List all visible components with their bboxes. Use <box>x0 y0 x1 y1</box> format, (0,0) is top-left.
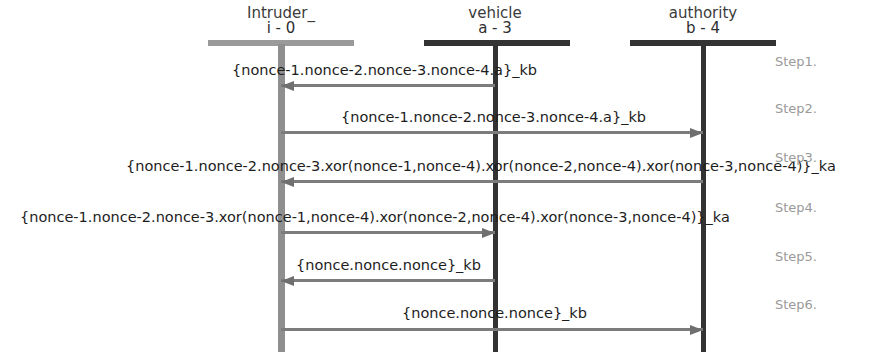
message-arrow-line <box>281 84 495 87</box>
step-label: Step4. <box>775 200 817 215</box>
message-arrow-line <box>281 180 703 183</box>
step-label: Step1. <box>775 54 817 69</box>
message-label: {nonce.nonce.nonce}_kb <box>296 257 481 273</box>
actor-id: b - 4 <box>593 21 813 36</box>
actor-id: i - 0 <box>171 21 391 36</box>
step-label: Step6. <box>775 297 817 312</box>
lifeline-authority <box>701 44 706 352</box>
message-arrowhead-right <box>690 325 703 335</box>
message-arrowhead-right <box>482 228 495 238</box>
message-label: {nonce-1.nonce-2.nonce-3.xor(nonce-1,non… <box>126 158 836 174</box>
step-label: Step5. <box>775 249 817 264</box>
message-arrow-line <box>281 231 495 234</box>
message-arrowhead-left <box>281 177 294 187</box>
message-arrowhead-left <box>281 276 294 286</box>
message-label: {nonce-1.nonce-2.nonce-3.xor(nonce-1,non… <box>20 209 730 225</box>
actor-id: a - 3 <box>385 21 605 36</box>
message-arrowhead-left <box>281 81 294 91</box>
sequence-diagram: Intruder_i - 0vehiclea - 3authorityb - 4… <box>0 0 894 360</box>
step-label: Step2. <box>775 101 817 116</box>
actor-header-vehicle: vehiclea - 3 <box>385 6 605 37</box>
message-arrow-line <box>281 279 495 282</box>
message-label: {nonce-1.nonce-2.nonce-3.nonce-4.a}_kb <box>232 62 537 78</box>
message-arrow-line <box>281 328 703 331</box>
step-label: Step3. <box>775 150 817 165</box>
message-label: {nonce.nonce.nonce}_kb <box>402 305 587 321</box>
actor-header-intruder: Intruder_i - 0 <box>171 6 391 37</box>
message-arrow-line <box>281 131 703 134</box>
message-arrowhead-right <box>690 128 703 138</box>
message-label: {nonce-1.nonce-2.nonce-3.nonce-4.a}_kb <box>341 109 646 125</box>
actor-header-authority: authorityb - 4 <box>593 6 813 37</box>
